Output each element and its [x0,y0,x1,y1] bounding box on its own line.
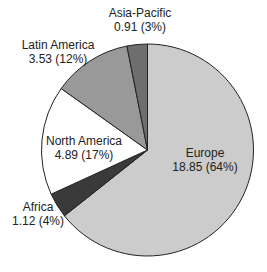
label-africa-name: Africa [12,200,64,214]
label-africa: Africa 1.12 (4%) [12,200,64,228]
label-africa-value: 1.12 (4%) [12,214,64,228]
label-asia-pacific-name: Asia-Pacific [109,6,172,20]
label-asia-pacific: Asia-Pacific 0.91 (3%) [109,6,172,34]
label-europe-name: Europe [172,146,237,160]
label-latin-america-value: 3.53 (12%) [22,52,95,66]
label-europe-value: 18.85 (64%) [172,160,237,174]
label-asia-pacific-value: 0.91 (3%) [109,20,172,34]
label-europe: Europe 18.85 (64%) [172,146,237,174]
label-north-america-value: 4.89 (17%) [46,148,122,162]
label-north-america-name: North America [46,134,122,148]
label-latin-america-name: Latin America [22,38,95,52]
label-latin-america: Latin America 3.53 (12%) [22,38,95,66]
label-north-america: North America 4.89 (17%) [46,134,122,162]
